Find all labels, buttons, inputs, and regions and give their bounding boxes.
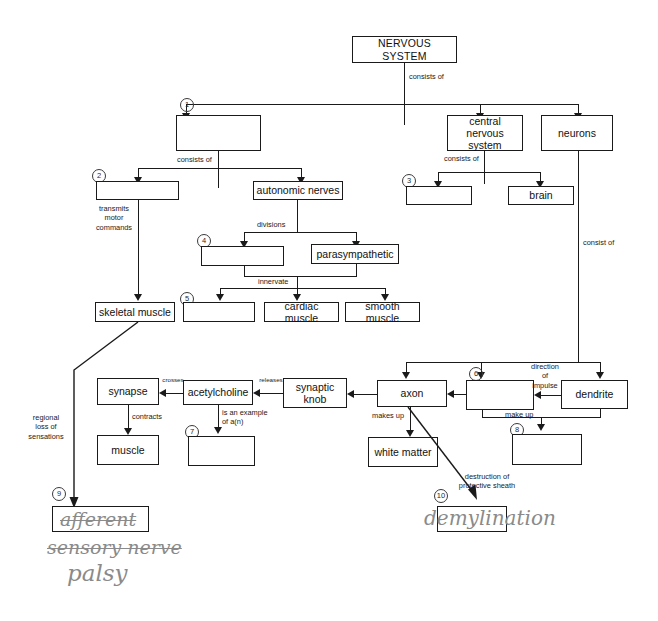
label-innervate: innervate xyxy=(258,277,318,286)
edge-cns-bus xyxy=(438,172,541,173)
edge-neuron-bus xyxy=(406,362,600,363)
edge-axon-to-knob xyxy=(352,394,377,395)
label-destruction-of-protective-sheath: destruction of protective sheath xyxy=(447,472,527,491)
node-axon: axon xyxy=(377,380,447,407)
node-synapse: synapse xyxy=(97,378,159,405)
arrow-to-skeletal-muscle xyxy=(134,294,142,301)
node-brain: brain xyxy=(508,186,574,205)
arrow-acetylcholine-to-synapse xyxy=(159,389,166,397)
node-muscle: muscle xyxy=(97,435,159,465)
label-direction-of-impulse: direction of impulse xyxy=(522,362,568,390)
handwriting-palsy: palsy xyxy=(67,560,128,586)
edge-divisions-bus xyxy=(244,232,357,233)
blank-number-9: 9 xyxy=(52,487,66,501)
node-blank-1[interactable] xyxy=(176,115,261,151)
node-neurons: neurons xyxy=(541,115,613,151)
blank-number-1: 1 xyxy=(180,98,194,112)
edge-knob-to-acetylcholine xyxy=(258,393,283,394)
arrow-to-dendrite xyxy=(596,372,604,379)
edge-innervate-bus xyxy=(220,288,386,289)
label-crosses: crosses xyxy=(158,376,188,384)
arrow-synapse-to-muscle xyxy=(124,428,132,435)
arrow-acetylcholine-to-node7 xyxy=(214,427,222,434)
edge-node1-bus xyxy=(138,168,302,169)
node-dendrite: dendrite xyxy=(561,380,628,409)
edge-ns-down xyxy=(404,63,405,125)
node-nervous-system: NERVOUS SYSTEM xyxy=(352,36,457,63)
edge-neurons-down xyxy=(578,151,579,362)
node-smooth-muscle: smooth muscle xyxy=(345,302,420,322)
node-parasympathetic: parasympathetic xyxy=(311,244,399,264)
node-autonomic-nerves: autonomic nerves xyxy=(253,181,343,200)
arrow-axon-to-knob xyxy=(347,390,354,398)
node-synaptic-knob: synaptic knob xyxy=(283,378,347,408)
arrow-to-axon xyxy=(402,372,410,379)
label-consists-of-top: consists of xyxy=(409,72,469,81)
handwriting-demylination: demylination xyxy=(424,506,556,530)
arrow-to-node5 xyxy=(216,294,224,301)
arrow-to-node8 xyxy=(537,424,545,431)
node-blank-8[interactable] xyxy=(512,434,582,465)
edge-node6-to-axon xyxy=(452,394,467,395)
edge-acetylcholine-to-synapse xyxy=(164,393,183,394)
blank-number-10: 10 xyxy=(434,489,448,503)
blank-number-6: 6 xyxy=(469,367,483,381)
edge-ns-bus xyxy=(186,104,579,105)
node-blank-5[interactable] xyxy=(183,302,255,322)
label-consists-of-cns: consists of xyxy=(444,154,504,163)
label-contracts: contracts xyxy=(132,412,172,421)
label-divisions: divisions xyxy=(257,220,317,229)
arrow-node6-to-axon xyxy=(447,390,454,398)
node-central-nervous-system: central nervous system xyxy=(447,115,523,151)
label-is-an-example-of: is an example of a(n) xyxy=(222,408,282,427)
label-consist-of: consist of xyxy=(583,238,643,247)
node-acetylcholine: acetylcholine xyxy=(183,380,253,405)
arrow-knob-to-acetylcholine xyxy=(253,389,260,397)
label-regional-loss-of-sensations: regional loss of sensations xyxy=(22,413,70,441)
edge-synapse-to-muscle xyxy=(128,405,129,430)
label-make-up: make up xyxy=(505,410,545,419)
node-blank-4[interactable] xyxy=(201,246,284,266)
label-transmits-motor-commands: transmits motor commands xyxy=(92,204,136,232)
label-consists-of-left: consists of xyxy=(177,155,237,164)
label-releases: releases xyxy=(256,376,286,384)
arrow-dendrite-to-node6 xyxy=(534,391,541,399)
handwriting-afferent: afferent xyxy=(60,508,136,530)
node-blank-7[interactable] xyxy=(188,436,255,466)
handwriting-sensory-nerve: sensory nerve xyxy=(47,536,182,558)
edge-node2-to-skeletal xyxy=(138,200,139,296)
node-blank-2[interactable] xyxy=(96,181,179,200)
edge-dendrite-to-node6 xyxy=(539,395,562,396)
node-blank-3[interactable] xyxy=(406,186,472,205)
edge-acetylcholine-to-node7 xyxy=(218,405,219,429)
node-cardiac-muscle: cardiac muscle xyxy=(264,302,339,322)
concept-map-diagram: NERVOUS SYSTEM consists of 1 central ner… xyxy=(0,0,658,621)
